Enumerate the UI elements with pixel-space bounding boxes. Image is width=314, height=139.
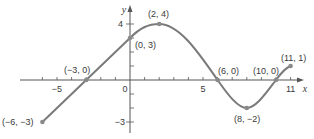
label-11-1: (11, 1) bbox=[281, 53, 306, 63]
label-m6-m3: (−6, −3) bbox=[2, 117, 34, 127]
label-0-3: (0, 3) bbox=[135, 40, 156, 50]
y-axis-label: y bbox=[121, 4, 127, 15]
x-tick-label-5: 5 bbox=[200, 84, 205, 94]
label-6-0: (6, 0) bbox=[218, 66, 239, 76]
label-8-m2: (8, −2) bbox=[234, 114, 260, 124]
y-tick-label-minus3: −3 bbox=[115, 117, 125, 127]
x-tick-label-11: 11 bbox=[286, 84, 295, 94]
point-m3-0 bbox=[84, 78, 89, 83]
x-axis-label: x bbox=[302, 83, 308, 94]
point-0-3 bbox=[128, 36, 133, 41]
point-11-1 bbox=[288, 64, 293, 69]
point-2-4 bbox=[157, 22, 162, 27]
label-10-0: (10, 0) bbox=[253, 66, 279, 76]
y-tick-label-4: 4 bbox=[118, 19, 123, 29]
label-2-4: (2, 4) bbox=[148, 9, 169, 19]
x-axis: −5 0 5 11 x bbox=[20, 77, 308, 94]
point-6-0 bbox=[215, 78, 220, 83]
function-graph: −5 0 5 11 x 4 −3 y ( bbox=[0, 0, 314, 139]
x-tick-label-0: 0 bbox=[122, 84, 127, 94]
point-8-m2 bbox=[245, 106, 250, 111]
point-10-0 bbox=[274, 78, 279, 83]
y-axis: 4 −3 y bbox=[115, 4, 134, 133]
x-tick-label-minus5: −5 bbox=[52, 84, 62, 94]
label-m3-0: (−3, 0) bbox=[64, 65, 90, 75]
point-m6-m3 bbox=[40, 120, 45, 125]
